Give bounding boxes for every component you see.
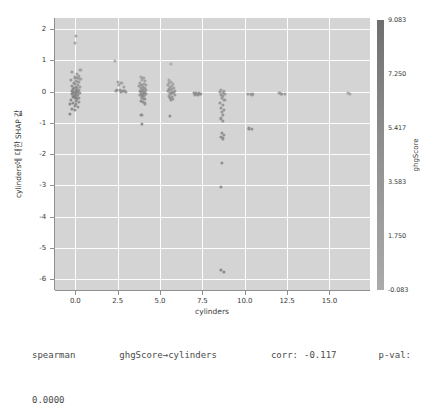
scatter-point <box>250 127 253 130</box>
scatter-point <box>169 114 172 117</box>
caption-block: spearmanghgScore→cylinderscorr:-0.117p-v… <box>32 318 430 407</box>
gridline-horizontal <box>55 29 370 30</box>
y-tick-label: -1 <box>39 119 46 127</box>
gridline-horizontal <box>55 185 370 186</box>
x-tick-label: 7.5 <box>197 297 208 305</box>
caption-pval-label: p-val: <box>379 348 412 363</box>
colorbar-tick-label: 9.083 <box>388 16 406 24</box>
scatter-point <box>114 59 117 62</box>
scatter-point <box>279 93 282 96</box>
caption-corr-value: -0.117 <box>304 348 337 363</box>
x-tick-mark <box>202 291 203 295</box>
scatter-point <box>219 185 222 188</box>
caption-corr-label: corr: <box>271 348 298 363</box>
y-tick-label: -4 <box>39 213 46 221</box>
y-tick-label: -2 <box>39 150 46 158</box>
scatter-point <box>223 98 226 101</box>
scatter-point <box>74 34 77 37</box>
scatter-point <box>71 71 74 74</box>
scatter-point <box>173 93 176 96</box>
y-tick-label: 0 <box>42 88 46 96</box>
x-tick-mark <box>118 291 119 295</box>
scatter-point <box>348 92 351 95</box>
x-tick-mark <box>329 291 330 295</box>
x-tick-mark <box>160 291 161 295</box>
gridline-horizontal <box>55 279 370 280</box>
scatter-point <box>283 92 286 95</box>
caption-method: spearman <box>32 348 75 363</box>
scatter-point <box>222 270 225 273</box>
scatter-point <box>119 90 122 93</box>
y-tick-mark <box>50 217 54 218</box>
x-tick-mark <box>245 291 246 295</box>
scatter-point <box>74 109 77 112</box>
caption-relation: ghgScore→cylinders <box>119 348 217 363</box>
x-tick-mark <box>287 291 288 295</box>
y-tick-label: -3 <box>39 181 46 189</box>
scatter-point <box>221 137 224 140</box>
scatter-point <box>140 114 143 117</box>
colorbar-tick-label: -0.083 <box>388 286 408 294</box>
y-tick-mark <box>50 248 54 249</box>
y-tick-label: -5 <box>39 244 46 252</box>
scatter-point <box>169 62 172 65</box>
x-tick-label: 0.0 <box>70 297 81 305</box>
x-tick-mark <box>75 291 76 295</box>
caption-pval-value: 0.0000 <box>32 393 65 407</box>
scatter-point <box>170 99 173 102</box>
scatter-point <box>69 102 72 105</box>
y-tick-mark <box>50 60 54 61</box>
x-axis-spine <box>55 290 370 291</box>
x-tick-label: 10.0 <box>237 297 252 305</box>
colorbar-gradient[interactable] <box>377 20 384 290</box>
colorbar-tick-label: 7.250 <box>388 70 406 78</box>
y-tick-label: -6 <box>39 275 46 283</box>
colorbar-tick-label: 5.417 <box>388 124 406 132</box>
scatter-point <box>76 106 79 109</box>
y-tick-mark <box>50 29 54 30</box>
x-tick-label: 12.5 <box>279 297 294 305</box>
gridline-horizontal <box>55 217 370 218</box>
gridline-horizontal <box>55 60 370 61</box>
scatter-point <box>79 69 82 72</box>
colorbar-tick-label: 1.750 <box>388 232 406 240</box>
scatter-point <box>141 123 144 126</box>
y-axis-spine <box>54 18 55 290</box>
gridline-horizontal <box>55 123 370 124</box>
gridline-horizontal <box>55 154 370 155</box>
caption-line-2: 0.0000 <box>32 393 430 407</box>
gridline-horizontal <box>55 92 370 93</box>
scatter-point <box>220 161 223 164</box>
y-tick-mark <box>50 154 54 155</box>
scatter-point <box>196 93 199 96</box>
caption-line-1: spearmanghgScore→cylinderscorr:-0.117p-v… <box>32 348 430 363</box>
colorbar-title: ghgScore <box>412 139 420 172</box>
x-tick-label: 15.0 <box>322 297 337 305</box>
scatter-plot-area[interactable] <box>55 18 370 290</box>
scatter-point <box>117 84 120 87</box>
x-tick-label: 2.5 <box>112 297 123 305</box>
scatter-point <box>222 133 225 136</box>
x-tick-label: 5.0 <box>155 297 166 305</box>
colorbar-tick-label: 3.583 <box>388 178 406 186</box>
x-axis-title: cylinders <box>195 307 229 316</box>
y-tick-mark <box>50 92 54 93</box>
y-tick-label: 2 <box>42 25 46 33</box>
scatter-point <box>222 113 225 116</box>
y-tick-mark <box>50 123 54 124</box>
scatter-point <box>74 41 77 44</box>
gridline-horizontal <box>55 248 370 249</box>
y-tick-mark <box>50 279 54 280</box>
scatter-point <box>143 102 146 105</box>
scatter-point <box>122 85 125 88</box>
scatter-point <box>125 90 128 93</box>
y-tick-label: 1 <box>42 56 46 64</box>
y-tick-mark <box>50 185 54 186</box>
y-axis-title: cylinders에 대한 SHAP 값 <box>12 110 23 198</box>
scatter-point <box>69 112 72 115</box>
